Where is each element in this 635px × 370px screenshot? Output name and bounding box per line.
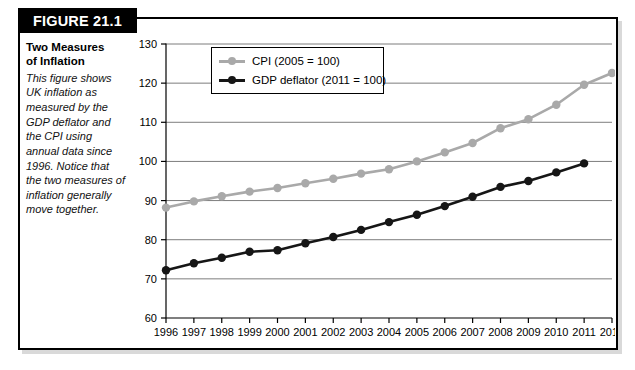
legend-entry-gdp-deflator: GDP deflator (2011 = 100): [219, 73, 386, 87]
caption-title-line-1: Two Measures: [26, 40, 126, 54]
data-point-gdp-deflator: [524, 177, 532, 185]
x-axis-tick-label: 2002: [321, 326, 345, 338]
data-point-gdp-deflator: [552, 168, 560, 176]
legend-entry-cpi: CPI (2005 = 100): [219, 54, 340, 68]
y-axis-tick-label: 130: [139, 38, 157, 50]
data-point-cpi: [301, 179, 309, 187]
x-axis-tick-label: 2000: [265, 326, 289, 338]
data-point-cpi: [608, 69, 615, 77]
legend-label-gdp-deflator: GDP deflator (2011 = 100): [252, 74, 386, 86]
x-axis-tick-label: 2010: [544, 326, 568, 338]
x-axis-tick-label: 2004: [377, 326, 401, 338]
data-point-gdp-deflator: [162, 266, 170, 274]
data-point-gdp-deflator: [385, 218, 393, 226]
data-point-gdp-deflator: [190, 259, 198, 267]
y-axis-tick-label: 110: [139, 116, 157, 128]
data-point-gdp-deflator: [441, 202, 449, 210]
x-axis-tick-label: 2006: [433, 326, 457, 338]
data-point-cpi: [441, 148, 449, 156]
data-point-gdp-deflator: [273, 246, 281, 254]
data-point-cpi: [496, 124, 504, 132]
chart-legend: CPI (2005 = 100) GDP deflator (2011 = 10…: [211, 47, 384, 94]
x-axis-tick-label: 2011: [572, 326, 596, 338]
data-point-gdp-deflator: [357, 226, 365, 234]
data-point-cpi: [162, 203, 170, 211]
x-axis-tick-label: 2001: [293, 326, 317, 338]
x-axis-tick-label: 2007: [460, 326, 484, 338]
series-line-gdp-deflator: [166, 163, 584, 270]
x-axis-tick-label: 2008: [488, 326, 512, 338]
x-axis-tick-label: 2005: [405, 326, 429, 338]
x-axis-tick-label: 1997: [182, 326, 206, 338]
x-axis-tick-label: 1999: [237, 326, 261, 338]
y-axis-tick-label: 80: [145, 234, 157, 246]
caption-body: This figure shows UK inflation as measur…: [26, 71, 126, 217]
data-point-cpi: [524, 115, 532, 123]
caption-title-line-2: of Inflation: [26, 54, 126, 68]
data-point-cpi: [218, 192, 226, 200]
data-point-cpi: [357, 169, 365, 177]
y-axis-tick-label: 60: [145, 312, 157, 324]
data-point-cpi: [385, 165, 393, 173]
x-axis-tick-label: 2012: [600, 326, 615, 338]
caption-title: Two Measures of Inflation: [26, 40, 126, 69]
y-axis-tick-label: 100: [139, 155, 157, 167]
data-point-cpi: [580, 81, 588, 89]
x-axis-tick-label: 1996: [154, 326, 178, 338]
y-axis-tick-label: 70: [145, 273, 157, 285]
data-point-cpi: [468, 139, 476, 147]
x-axis-tick-label: 1998: [210, 326, 234, 338]
data-point-cpi: [413, 157, 421, 165]
x-axis-tick-label: 2009: [516, 326, 540, 338]
data-point-cpi: [329, 175, 337, 183]
x-axis-tick-label: 2003: [349, 326, 373, 338]
figure-container: FIGURE 21.1 Two Measures of Inflation Th…: [0, 0, 635, 370]
legend-label-cpi: CPI (2005 = 100): [252, 55, 340, 67]
figure-caption: Two Measures of Inflation This figure sh…: [26, 40, 126, 217]
data-point-gdp-deflator: [496, 183, 504, 191]
data-point-gdp-deflator: [245, 248, 253, 256]
data-point-cpi: [552, 101, 560, 109]
figure-number-label: FIGURE 21.1: [33, 13, 122, 29]
data-point-cpi: [190, 197, 198, 205]
data-point-cpi: [273, 184, 281, 192]
data-point-cpi: [245, 187, 253, 195]
y-axis-tick-label: 90: [145, 195, 157, 207]
data-point-gdp-deflator: [301, 239, 309, 247]
data-point-gdp-deflator: [468, 193, 476, 201]
legend-swatch-gdp-deflator-icon: [219, 75, 245, 85]
y-axis-tick-label: 120: [139, 77, 157, 89]
data-point-gdp-deflator: [580, 159, 588, 167]
legend-swatch-cpi-icon: [219, 56, 245, 66]
data-point-gdp-deflator: [413, 211, 421, 219]
data-point-gdp-deflator: [218, 254, 226, 262]
data-point-gdp-deflator: [329, 233, 337, 241]
